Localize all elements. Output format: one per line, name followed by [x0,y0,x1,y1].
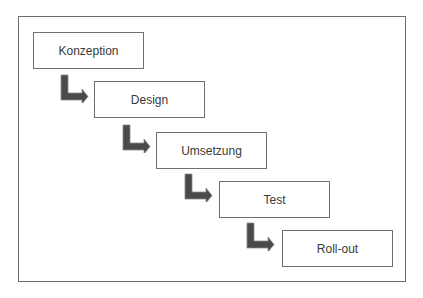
step-test: Test [219,181,330,218]
step-label: Test [263,193,285,207]
step-design: Design [94,81,205,118]
elbow-arrow-icon [245,221,275,251]
step-label: Design [131,93,168,107]
elbow-arrow-icon [59,73,89,103]
step-label: Umsetzung [181,144,242,158]
step-label: Roll-out [317,242,358,256]
step-roll-out: Roll-out [282,230,393,267]
elbow-arrow-icon [183,172,213,202]
step-label: Konzeption [58,44,118,58]
elbow-arrow-icon [121,123,151,153]
step-konzeption: Konzeption [33,32,144,69]
step-umsetzung: Umsetzung [156,132,267,169]
